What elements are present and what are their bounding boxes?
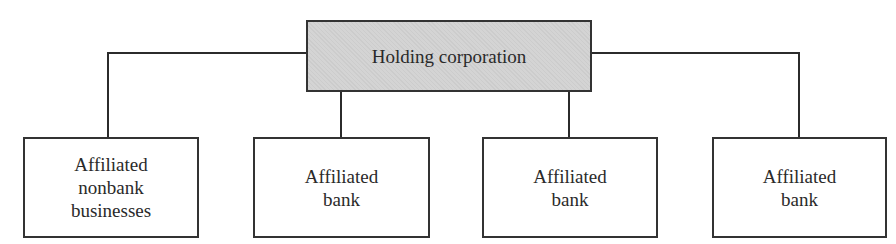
node-label: Affiliated nonbank businesses xyxy=(71,153,151,222)
connector-horizontal-right xyxy=(590,52,800,54)
node-label: Holding corporation xyxy=(372,45,527,68)
connector-horizontal-left xyxy=(107,52,307,54)
node-affiliated-nonbank-businesses: Affiliated nonbank businesses xyxy=(23,137,199,238)
connector-vertical-4 xyxy=(798,52,800,138)
node-label: Affiliated bank xyxy=(533,165,607,211)
connector-vertical-1 xyxy=(107,52,109,138)
node-holding-corporation: Holding corporation xyxy=(306,20,592,92)
node-affiliated-bank-1: Affiliated bank xyxy=(253,137,430,238)
node-label: Affiliated bank xyxy=(763,165,837,211)
connector-vertical-2 xyxy=(340,90,342,138)
node-affiliated-bank-2: Affiliated bank xyxy=(482,137,658,238)
connector-vertical-3 xyxy=(568,90,570,138)
node-label: Affiliated bank xyxy=(305,165,379,211)
node-affiliated-bank-3: Affiliated bank xyxy=(712,137,887,238)
